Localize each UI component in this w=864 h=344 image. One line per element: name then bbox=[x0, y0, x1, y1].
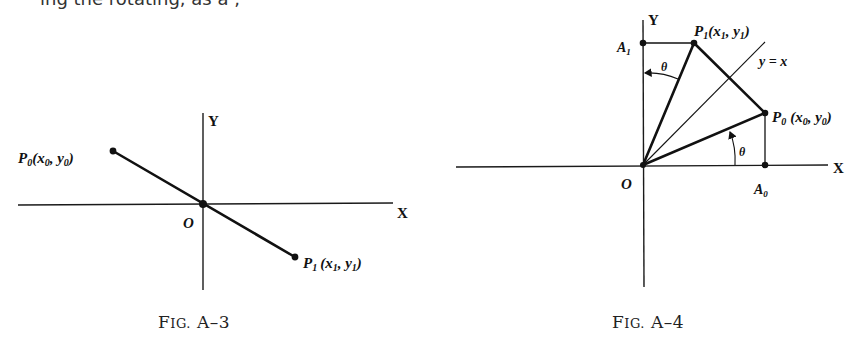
point-p1 bbox=[691, 40, 698, 47]
point-p0 bbox=[762, 110, 769, 117]
y-axis-label: Y bbox=[648, 12, 659, 28]
figure-a3: Y X O P0(x0, y0) P1(x1, y1) bbox=[18, 113, 408, 290]
point-p0 bbox=[110, 148, 117, 155]
a0-label: A0 bbox=[753, 182, 768, 199]
point-a0 bbox=[762, 162, 769, 169]
line-y-equals-x-label: y = x bbox=[757, 54, 787, 69]
caption-fig-a4: FIG. A–4 bbox=[612, 312, 684, 332]
y-axis bbox=[643, 20, 644, 287]
x-axis-label: X bbox=[833, 160, 844, 176]
point-origin bbox=[199, 200, 207, 208]
angle-arc-lower bbox=[730, 132, 735, 165]
figures-canvas: Y X O P0(x0, y0) P1(x1, y1) bbox=[0, 0, 864, 344]
point-p1 bbox=[292, 254, 299, 261]
theta-label-upper: θ bbox=[661, 60, 668, 74]
theta-label-lower: θ bbox=[739, 145, 746, 159]
y-axis-label: Y bbox=[208, 113, 219, 129]
point-a1 bbox=[640, 40, 647, 47]
p1-label: P1(x1, y1) bbox=[694, 23, 750, 41]
p0-label: P0(x0, y0) bbox=[772, 109, 832, 127]
p1-label: P1(x1, y1) bbox=[303, 255, 362, 273]
origin-label: O bbox=[621, 176, 632, 192]
point-origin bbox=[640, 162, 646, 168]
caption-fig-a3: FIG. A–3 bbox=[158, 312, 230, 332]
figure-a4: Y X O A1 A0 P1(x1, y1) P0(x0, y0) y = x … bbox=[456, 12, 844, 287]
a1-label: A1 bbox=[616, 40, 631, 57]
origin-label: O bbox=[183, 215, 194, 231]
x-axis-label: X bbox=[397, 205, 408, 221]
p0-label: P0(x0, y0) bbox=[18, 150, 74, 168]
